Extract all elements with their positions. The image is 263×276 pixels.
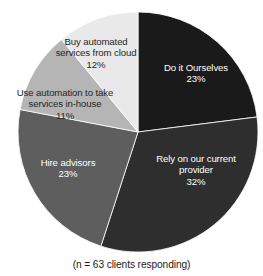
pie-chart-area: Do it Ourselves 23% Rely on our current …	[0, 0, 263, 258]
pie-chart-svg	[0, 0, 263, 258]
chart-caption: (n = 63 clients responding)	[0, 258, 263, 271]
pie-chart-figure: Do it Ourselves 23% Rely on our current …	[0, 0, 263, 276]
pie-slices-group	[18, 12, 258, 252]
pie-slice-do-it-ourselves	[138, 12, 257, 132]
